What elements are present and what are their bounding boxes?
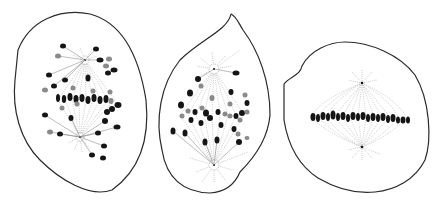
cell-2: [159, 14, 270, 193]
cell-1-membrane: [14, 13, 146, 192]
cell-1: [14, 13, 146, 192]
cell-3: [284, 42, 429, 192]
cell-3-lower-aster: [348, 146, 380, 161]
cell-1-upper-aster: [73, 48, 97, 64]
mitosis-figure: [0, 0, 443, 204]
centrosome-icon: [361, 82, 364, 85]
cell-3-metaphase-plate: [311, 111, 411, 124]
cell-3-upper-aster: [348, 70, 377, 84]
cell-2-chromosomes: [171, 69, 250, 165]
centrosome-icon: [361, 146, 364, 149]
